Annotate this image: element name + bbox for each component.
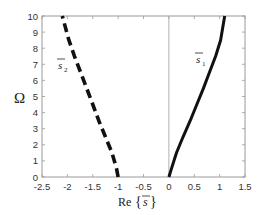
- y-tick-label: 1: [33, 155, 38, 166]
- x-axis-label-open-brace: {: [135, 194, 142, 209]
- y-tick-label: 6: [33, 75, 38, 86]
- x-axis-label-var: s: [143, 195, 148, 209]
- x-axis-label: Re { s }: [118, 194, 157, 209]
- y-tick-label: 9: [33, 27, 38, 38]
- y-tick-label: 3: [33, 123, 38, 134]
- x-tick-label: 0.5: [188, 181, 201, 192]
- y-tick-label: 5: [33, 91, 38, 102]
- tick-labels: -2.5-2-1.5-1-0.500.511.5012345678910: [27, 11, 251, 193]
- plot-frame: [42, 16, 245, 177]
- x-tick-label: 1.5: [238, 181, 251, 192]
- s2-label-sub: 2: [64, 66, 68, 74]
- y-axis-label: Ω: [14, 90, 25, 106]
- s2-label-main: s: [58, 59, 62, 71]
- y-tick-label: 4: [33, 107, 38, 118]
- y-tick-label: 10: [27, 11, 38, 22]
- series-label-s2: s 2: [57, 59, 68, 74]
- y-tick-label: 7: [33, 59, 38, 70]
- x-tick-label: -1.5: [85, 181, 101, 192]
- series-line-2: [62, 16, 118, 177]
- x-axis-label-close-brace: }: [150, 194, 157, 209]
- x-tick-label: -0.5: [135, 181, 151, 192]
- x-tick-label: -2: [63, 181, 71, 192]
- x-tick-label: 1: [217, 181, 222, 192]
- plot-axes: [42, 16, 245, 177]
- y-tick-label: 8: [33, 43, 38, 54]
- series-label-s1: s 1: [195, 53, 206, 68]
- x-tick-label: -1: [114, 181, 122, 192]
- s1-label-main: s: [196, 53, 200, 65]
- x-tick-label: 0: [166, 181, 171, 192]
- s1-label-sub: 1: [202, 60, 206, 68]
- chart: -2.5-2-1.5-1-0.500.511.5012345678910 Ω R…: [0, 0, 267, 215]
- y-tick-label: 2: [33, 139, 38, 150]
- series-group: [62, 16, 224, 177]
- series-line-1: [169, 16, 225, 177]
- y-tick-label: 0: [33, 172, 38, 183]
- x-tick-label: -2.5: [34, 181, 50, 192]
- x-axis-label-prefix: Re: [118, 195, 131, 209]
